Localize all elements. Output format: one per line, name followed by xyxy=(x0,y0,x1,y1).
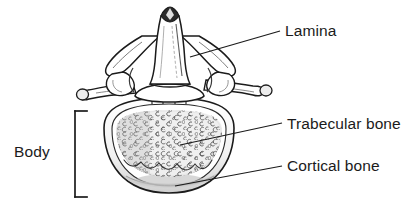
label-trabecular-bone: Trabecular bone xyxy=(287,116,401,132)
spinous-process xyxy=(150,7,190,87)
label-body: Body xyxy=(14,144,50,160)
vertebra-figure: Lamina Trabecular bone Cortical bone Bod… xyxy=(0,0,420,211)
label-cortical-bone: Cortical bone xyxy=(287,158,380,174)
body-bracket xyxy=(75,111,87,197)
label-lamina: Lamina xyxy=(285,23,336,39)
posterior-arch xyxy=(77,7,273,102)
vertebra-illustration xyxy=(0,0,420,211)
